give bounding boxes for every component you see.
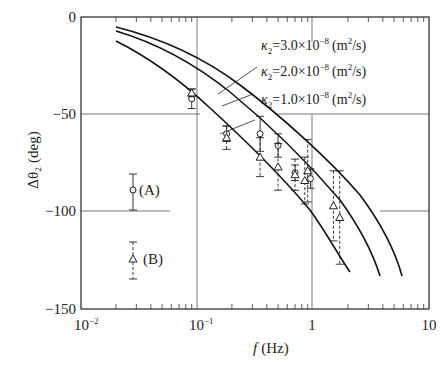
- data-point-b: [256, 138, 264, 177]
- legend-a-label: (A): [139, 182, 160, 199]
- annotation-k3: κ2=3.0×10−8(m2/s): [261, 36, 367, 56]
- annotation-k2: κ2=2.0×10−8(m2/s): [261, 62, 367, 82]
- data-point-b: [274, 144, 282, 191]
- annotation-k1: κ2=1.0×10−8(m2/s): [261, 90, 367, 110]
- svg-text:1: 1: [308, 317, 316, 333]
- legend-b-label: (B): [143, 251, 163, 268]
- circle-marker-icon: [130, 187, 136, 193]
- svg-text:10: 10: [422, 317, 437, 333]
- y-tick-labels: 0 −50 −100 −150: [45, 9, 76, 317]
- x-tick-labels: 10−2 10−1 1 10: [74, 316, 437, 333]
- svg-text:10−2: 10−2: [74, 316, 99, 333]
- chart-canvas: κ2=3.0×10−8(m2/s) κ2=2.0×10−8(m2/s) κ2=1…: [0, 0, 448, 374]
- y-axis-label: Δθ₂ (deg): [25, 131, 42, 188]
- x-axis-label: f(Hz): [253, 340, 289, 357]
- legend-a: (A): [129, 174, 160, 210]
- svg-text:κ2=1.0×10−8(m2/s): κ2=1.0×10−8(m2/s): [261, 90, 367, 110]
- legend-b: (B): [129, 242, 163, 279]
- data-points: [188, 89, 344, 264]
- svg-text:0: 0: [69, 9, 77, 25]
- data-point-b: [291, 159, 299, 190]
- annotation-leaders: [218, 67, 257, 134]
- triangle-marker-icon: [129, 255, 137, 262]
- svg-text:−50: −50: [53, 106, 76, 122]
- svg-text:κ2=3.0×10−8(m2/s): κ2=3.0×10−8(m2/s): [261, 36, 367, 56]
- legend: (A) (B): [129, 174, 163, 279]
- svg-text:−150: −150: [45, 301, 76, 317]
- svg-text:κ2=2.0×10−8(m2/s): κ2=2.0×10−8(m2/s): [261, 62, 367, 82]
- svg-text:10−1: 10−1: [189, 316, 214, 333]
- svg-text:−100: −100: [45, 203, 76, 219]
- data-point-b: [329, 171, 337, 241]
